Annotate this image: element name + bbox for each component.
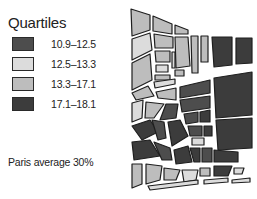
legend-item-q3: 13.3–17.1 <box>8 75 123 92</box>
legend-swatch-q1 <box>12 37 34 51</box>
legend-swatch-q3 <box>12 77 34 91</box>
legend-swatch-q2 <box>12 57 34 71</box>
map-legend: Quartiles 10.9–12.5 12.5–13.3 13.3–17.1 … <box>8 14 123 115</box>
legend-title: Quartiles <box>8 14 123 32</box>
legend-item-q2: 12.5–13.3 <box>8 55 123 72</box>
legend-label-q1: 10.9–12.5 <box>51 38 96 50</box>
choropleth-map <box>128 0 257 199</box>
paris-average-note: Paris average 30% <box>8 156 93 168</box>
legend-item-q1: 10.9–12.5 <box>8 35 123 52</box>
legend-label-q4: 17.1–18.1 <box>51 98 96 110</box>
legend-label-q2: 12.5–13.3 <box>51 58 96 70</box>
city-blocks-map <box>128 0 257 199</box>
legend-item-q4: 17.1–18.1 <box>8 95 123 112</box>
legend-label-q3: 13.3–17.1 <box>51 78 96 90</box>
legend-swatch-q4 <box>12 97 34 111</box>
